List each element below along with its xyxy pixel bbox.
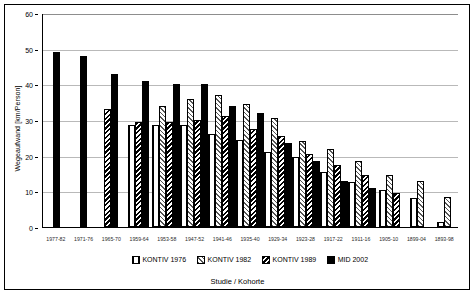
bar (444, 197, 451, 227)
bar (208, 134, 215, 227)
bar-group (125, 14, 152, 227)
bar (379, 190, 386, 227)
bar (348, 182, 355, 227)
legend-swatch (327, 256, 335, 264)
x-axis-tick-label: 1899-04 (403, 236, 431, 248)
chart-legend: KONTIV 1976KONTIV 1982KONTIV 1989MID 200… (42, 253, 458, 267)
legend-label: KONTIV 1976 (142, 256, 186, 264)
x-axis-title: Studie / Kohorte (0, 277, 475, 286)
bar (180, 125, 187, 227)
bar (355, 161, 362, 227)
x-axis-tick-label: 1917-22 (319, 236, 347, 248)
bar-group (98, 14, 125, 227)
bar (299, 141, 306, 227)
y-axis-tick-label: 60 (25, 11, 33, 18)
bar-group (264, 14, 292, 227)
bar (320, 172, 327, 227)
bar-group (376, 14, 403, 227)
bar (341, 181, 348, 227)
legend-item: KONTIV 1976 (132, 256, 186, 264)
x-axis-tick-label: 1923-28 (292, 236, 320, 248)
bar (437, 222, 444, 227)
x-axis-tick-label: 1971-76 (70, 236, 98, 248)
y-axis-tick (35, 192, 38, 193)
bar (313, 161, 320, 227)
bar-group (152, 14, 180, 227)
y-axis-tick-label: 30 (25, 118, 33, 125)
bar-group (43, 14, 70, 227)
bar (417, 181, 424, 227)
bar (369, 188, 376, 227)
bar (104, 109, 111, 227)
x-axis-tick-label: 1905-10 (375, 236, 403, 248)
bar (386, 175, 393, 227)
bar-group (236, 14, 264, 227)
legend-label: MID 2002 (338, 256, 368, 264)
bar (166, 122, 173, 227)
x-axis-tick-label: 1953-58 (153, 236, 181, 248)
bar (410, 198, 417, 227)
bar-group (70, 14, 97, 227)
bar (142, 81, 149, 227)
x-axis-tick-label: 1941-46 (208, 236, 236, 248)
bar-group (180, 14, 208, 227)
bar-group (208, 14, 236, 227)
bar (334, 165, 341, 227)
bar-group (403, 14, 430, 227)
y-axis-tick (35, 228, 38, 229)
y-axis-tick-labels: 0102030405060 (0, 14, 38, 228)
x-axis-tick-labels: 1977-821971-761965-701959-641953-581947-… (42, 236, 458, 248)
bar (187, 99, 194, 227)
bar (243, 104, 250, 227)
legend-swatch (197, 256, 205, 264)
bar (264, 152, 271, 227)
bar (362, 175, 369, 227)
bar (236, 140, 243, 227)
bar (201, 84, 208, 227)
plot-area (42, 14, 458, 228)
legend-label: KONTIV 1989 (273, 256, 317, 264)
y-axis-tick (35, 50, 38, 51)
bar-group (431, 14, 458, 227)
bar (111, 74, 118, 227)
x-axis-tick-label: 1935-40 (236, 236, 264, 248)
y-axis-tick-label: 10 (25, 189, 33, 196)
x-axis-tick-label: 1965-70 (97, 236, 125, 248)
legend-item: MID 2002 (327, 256, 368, 264)
bar (159, 106, 166, 227)
bar (135, 122, 142, 227)
bar (250, 129, 257, 227)
bar (285, 143, 292, 227)
bar (257, 113, 264, 227)
bar (215, 95, 222, 227)
bar (80, 56, 87, 227)
y-axis-tick (35, 85, 38, 86)
bar-group (320, 14, 348, 227)
y-axis-tick (35, 14, 38, 15)
bar (393, 193, 400, 227)
bar (229, 106, 236, 227)
x-axis-tick-label: 1977-82 (42, 236, 70, 248)
legend-label: KONTIV 1982 (208, 256, 252, 264)
x-axis-tick-label: 1959-64 (125, 236, 153, 248)
bar (292, 157, 299, 227)
y-axis-tick-label: 20 (25, 153, 33, 160)
y-axis-tick-label: 0 (29, 225, 33, 232)
bar-groups (43, 14, 458, 227)
legend-item: KONTIV 1982 (197, 256, 251, 264)
bar (278, 136, 285, 227)
bar (327, 149, 334, 227)
bar-group (348, 14, 376, 227)
x-axis-tick-label: 1947-52 (181, 236, 209, 248)
legend-swatch (262, 256, 270, 264)
y-axis-tick (35, 157, 38, 158)
legend-item: KONTIV 1989 (262, 256, 316, 264)
bar (53, 52, 60, 227)
x-axis-tick-label: 1911-16 (347, 236, 375, 248)
bar-group (292, 14, 320, 227)
bar (271, 118, 278, 227)
y-axis-tick (35, 121, 38, 122)
bar (152, 125, 159, 227)
chart-container: Wegeaufwand [km/Person] 0102030405060 19… (0, 0, 475, 295)
bar (128, 125, 135, 227)
